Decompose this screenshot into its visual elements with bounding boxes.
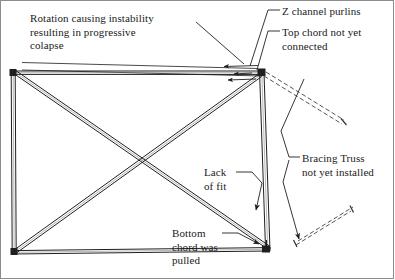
- annotation-top-chord: Top chord not yet connected: [282, 26, 361, 53]
- annotation-bracing: Bracing Truss not yet installed: [302, 152, 374, 179]
- annotation-purlins: Z channel purlins: [282, 5, 361, 19]
- annotation-rotation: Rotation causing instability resulting i…: [30, 12, 154, 53]
- diagram-page: Rotation causing instability resulting i…: [0, 0, 395, 280]
- annotation-bottom-chord: Bottom chord was pulled: [172, 227, 218, 268]
- annotation-lack-of-fit: Lack of fit: [204, 166, 226, 193]
- joint-node-top-left: [10, 69, 17, 76]
- joint-node-apex: [258, 69, 266, 77]
- joint-node-bottom-left: [11, 248, 18, 255]
